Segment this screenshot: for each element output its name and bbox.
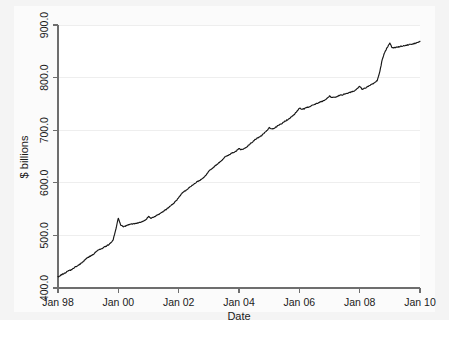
x-tick-label: Jan 08 <box>344 296 376 308</box>
chart-page: 900.0 800.0 700.0 600.0 500.0 400.0 $ bi… <box>0 0 449 344</box>
x-axis-ticks <box>58 288 420 293</box>
y-tick-label: 500.0 <box>38 222 50 248</box>
x-axis-title: Date <box>227 310 250 322</box>
x-tick-label: Jan 06 <box>284 296 316 308</box>
x-tick-label: Jan 98 <box>42 296 74 308</box>
y-axis-title: $ billions <box>18 135 30 178</box>
x-tick-label: Jan 00 <box>103 296 135 308</box>
y-tick-label: 600.0 <box>38 170 50 196</box>
plot-area-background <box>58 25 420 288</box>
x-tick-label: Jan 10 <box>404 296 436 308</box>
y-tick-label: 700.0 <box>38 117 50 143</box>
x-axis-tick-labels: Jan 98 Jan 00 Jan 02 Jan 04 Jan 06 Jan 0… <box>42 296 436 308</box>
y-axis-tick-labels: 900.0 800.0 700.0 600.0 500.0 400.0 <box>38 12 50 301</box>
x-tick-label: Jan 02 <box>163 296 195 308</box>
y-tick-label: 900.0 <box>38 12 50 38</box>
line-chart-figure: 900.0 800.0 700.0 600.0 500.0 400.0 $ bi… <box>0 0 449 344</box>
y-tick-label: 800.0 <box>38 64 50 90</box>
y-axis-ticks <box>53 25 58 288</box>
x-tick-label: Jan 04 <box>223 296 255 308</box>
